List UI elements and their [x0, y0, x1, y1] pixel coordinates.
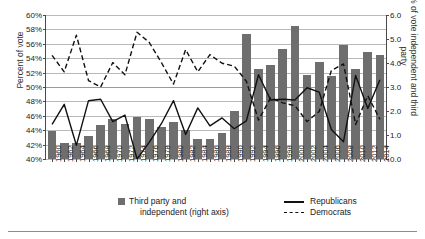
x-ticklabel: 1966 [91, 145, 100, 162]
x-ticklabel: 2014 [382, 145, 391, 162]
x-ticklabel: 1992 [248, 145, 257, 162]
x-ticklabel: 1990 [236, 145, 245, 162]
democrats-line [52, 32, 380, 124]
x-ticklabel: 1960 [54, 145, 63, 162]
y-ticklabel-right: 6.0 [390, 11, 401, 20]
y-tick-right [386, 63, 389, 64]
y-ticklabel-left: 44% [26, 126, 42, 135]
x-ticklabel: 1970 [115, 145, 124, 162]
y-ticklabel-left: 48% [26, 97, 42, 106]
x-ticklabel: 1972 [127, 145, 136, 162]
x-ticklabel: 1984 [200, 145, 209, 162]
y-ticklabel-left: 60% [26, 11, 42, 20]
y-ticklabel-right: 2.0 [390, 107, 401, 116]
chart-legend: Third party and independent (right axis)… [118, 196, 408, 224]
x-ticklabel: 1974 [139, 145, 148, 162]
x-ticklabel: 1996 [273, 145, 282, 162]
y-ticklabel-left: 40% [26, 155, 42, 164]
y-ticklabel-left: 58% [26, 25, 42, 34]
legend-swatch-bar-icon [118, 198, 125, 205]
x-axis-ticklabels: 1960196219641966196819701972197419761978… [45, 162, 385, 196]
y-ticklabel-left: 52% [26, 68, 42, 77]
x-ticklabel: 2012 [370, 145, 379, 162]
y-tick-right [386, 39, 389, 40]
x-ticklabel: 2010 [358, 145, 367, 162]
y-ticklabel-left: 50% [26, 83, 42, 92]
y-axis-ticklabels-left: 40%42%44%46%48%50%52%54%56%58%60% [14, 15, 42, 159]
x-ticklabel: 2000 [297, 145, 306, 162]
y-ticklabel-right: 0.0 [390, 155, 401, 164]
footer-rule [8, 231, 417, 232]
legend-label-bars-line1: Third party and [129, 196, 186, 206]
legend-swatch-republicans-icon [284, 201, 304, 203]
x-ticklabel: 1988 [224, 145, 233, 162]
chart-figure: Percent of vote % of vote independent an… [0, 0, 425, 239]
x-ticklabel: 2004 [321, 145, 330, 162]
x-ticklabel: 1968 [103, 145, 112, 162]
y-ticklabel-right: 4.0 [390, 59, 401, 68]
x-ticklabel: 1976 [151, 145, 160, 162]
y-tick-right [386, 111, 389, 112]
y-tick-right [386, 15, 389, 16]
y-tick-right [386, 135, 389, 136]
y-tick-right [386, 87, 389, 88]
x-ticklabel: 2008 [346, 145, 355, 162]
y-ticklabel-right: 1.0 [390, 131, 401, 140]
x-ticklabel: 1998 [285, 145, 294, 162]
x-ticklabel: 1982 [188, 145, 197, 162]
plot-area [45, 15, 387, 160]
x-ticklabel: 2006 [333, 145, 342, 162]
y-ticklabel-left: 46% [26, 111, 42, 120]
legend-label-bars-line2: independent (right axis) [140, 207, 229, 217]
y-axis-ticklabels-right: 0.01.02.03.04.05.06.0 [390, 15, 416, 159]
legend-swatch-democrats-icon [284, 212, 304, 213]
y-ticklabel-left: 42% [26, 140, 42, 149]
line-series-group [46, 15, 386, 159]
y-ticklabel-left: 56% [26, 39, 42, 48]
y-ticklabel-left: 54% [26, 54, 42, 63]
x-ticklabel: 1994 [261, 145, 270, 162]
x-ticklabel: 1980 [176, 145, 185, 162]
y-ticklabel-right: 5.0 [390, 35, 401, 44]
x-ticklabel: 1978 [163, 145, 172, 162]
y-ticklabel-right: 3.0 [390, 83, 401, 92]
x-ticklabel: 1986 [212, 145, 221, 162]
legend-label-democrats: Democrats [310, 207, 351, 217]
x-ticklabel: 2002 [309, 145, 318, 162]
x-ticklabel: 1962 [66, 145, 75, 162]
x-ticklabel: 1964 [78, 145, 87, 162]
legend-label-republicans: Republicans [310, 196, 357, 206]
